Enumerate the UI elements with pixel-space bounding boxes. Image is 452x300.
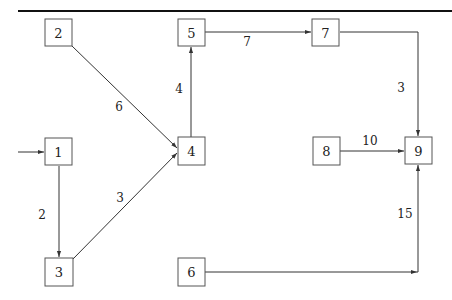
- node-7: 7: [312, 19, 339, 46]
- node-3-label: 3: [55, 265, 63, 280]
- weight-6-9: 15: [397, 207, 412, 221]
- node-1: 1: [45, 138, 72, 165]
- node-6-label: 6: [187, 265, 195, 280]
- weight-7-9: 3: [397, 81, 405, 95]
- node-2: 2: [45, 19, 72, 46]
- weight-4-5: 4: [175, 82, 183, 96]
- flow-diagram: 1 2 3 4 5 6 7 8 9 2 6 3 4 7 3 10 15: [0, 0, 452, 300]
- node-4: 4: [178, 137, 205, 165]
- node-3: 3: [45, 258, 73, 286]
- edge-7-9: [340, 32, 418, 136]
- weight-5-7: 7: [243, 35, 251, 49]
- weight-1-3: 2: [38, 208, 46, 222]
- node-9-label: 9: [414, 144, 422, 159]
- node-7-label: 7: [321, 26, 329, 41]
- weight-8-9: 10: [362, 134, 377, 148]
- node-9: 9: [405, 137, 432, 164]
- weight-2-4: 6: [115, 100, 123, 114]
- weight-3-4: 3: [116, 191, 124, 205]
- edge-6-9: [205, 165, 418, 272]
- edge-3-4: [73, 153, 177, 259]
- node-1-label: 1: [54, 145, 62, 160]
- node-2-label: 2: [54, 26, 62, 41]
- edge-2-4: [72, 46, 177, 148]
- node-6: 6: [178, 258, 205, 286]
- node-5-label: 5: [187, 26, 195, 41]
- node-8: 8: [313, 137, 340, 165]
- node-4-label: 4: [187, 144, 195, 159]
- node-5: 5: [178, 19, 205, 46]
- node-8-label: 8: [322, 144, 330, 159]
